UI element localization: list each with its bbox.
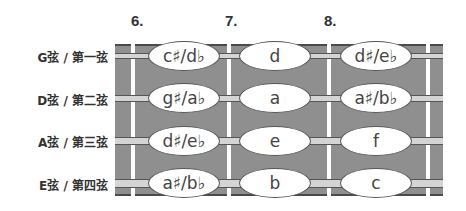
note-g-fret6: c♯/d♭	[148, 41, 220, 71]
fret-line	[426, 44, 430, 196]
string-label-d: D弦 / 第二弦	[0, 91, 108, 108]
note-d-fret7: a	[239, 83, 311, 113]
note-g-fret7: d	[239, 41, 311, 71]
string-label-e: E弦 / 第四弦	[0, 176, 108, 193]
note-a-fret7: e	[239, 126, 311, 156]
note-a-fret8: f	[340, 126, 412, 156]
note-e-fret6: a♯/b♭	[148, 168, 220, 198]
note-d-fret8: a♯/b♭	[340, 83, 412, 113]
fret-number-6: 6.	[131, 12, 144, 29]
string-label-a: A弦 / 第三弦	[0, 133, 108, 150]
string-label-g: G弦 / 第一弦	[0, 48, 108, 65]
fret-line	[327, 44, 331, 196]
fret-line	[227, 44, 231, 196]
fret-number-7: 7.	[225, 12, 238, 29]
note-a-fret6: d♯/e♭	[148, 126, 220, 156]
note-e-fret7: b	[239, 168, 311, 198]
fret-line	[131, 44, 135, 196]
note-d-fret6: g♯/a♭	[148, 83, 220, 113]
note-g-fret8: d♯/e♭	[340, 41, 412, 71]
note-e-fret8: c	[340, 168, 412, 198]
fret-number-8: 8.	[324, 12, 337, 29]
